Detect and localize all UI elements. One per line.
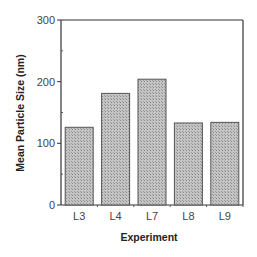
bar-chart: 0100200300L3L4L7L8L9 Mean Particle Size …: [0, 0, 257, 257]
x-tick-label: L8: [182, 210, 194, 222]
bar-l8: [174, 123, 202, 205]
x-axis-label: Experiment: [120, 231, 178, 243]
bar-l4: [102, 93, 130, 205]
x-tick-label: L7: [146, 210, 158, 222]
x-tick-label: L3: [73, 210, 85, 222]
plot-area: 0100200300L3L4L7L8L9: [37, 14, 243, 222]
y-axis-label: Mean Particle Size (nm): [14, 54, 26, 171]
y-tick-label: 200: [37, 76, 55, 88]
x-tick-label: L4: [109, 210, 121, 222]
bar-l7: [138, 79, 166, 205]
y-tick-label: 100: [37, 137, 55, 149]
x-tick-label: L9: [219, 210, 231, 222]
y-tick-label: 300: [37, 14, 55, 26]
bar-l3: [65, 127, 93, 205]
bar-l9: [211, 122, 239, 205]
y-tick-label: 0: [49, 199, 55, 211]
